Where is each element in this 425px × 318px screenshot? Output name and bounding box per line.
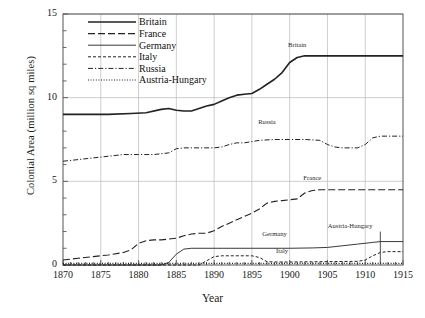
legend-label-italy: Italy <box>139 51 157 62</box>
x-tick-label-1880: 1880 <box>119 269 159 280</box>
legend-label-germany: Germany <box>139 40 176 51</box>
x-tick-label-1875: 1875 <box>81 269 121 280</box>
legend-label-britain: Britain <box>139 16 167 27</box>
x-tick-label-1885: 1885 <box>156 269 196 280</box>
y-tick-label-15: 15 <box>33 7 57 18</box>
annotation-italy: Italy <box>276 247 289 254</box>
legend-label-russia: Russia <box>139 63 166 74</box>
annotation-france: France <box>303 174 321 181</box>
x-tick-label-1915: 1915 <box>383 269 423 280</box>
x-tick-label-1900: 1900 <box>270 269 310 280</box>
x-tick-label-1905: 1905 <box>307 269 347 280</box>
x-tick-label-1910: 1910 <box>345 269 385 280</box>
annotation-russia: Russia <box>258 118 276 125</box>
y-tick-label-5: 5 <box>33 174 57 185</box>
series-line-russia <box>63 136 403 161</box>
x-tick-label-1870: 1870 <box>43 269 83 280</box>
y-tick-label-10: 10 <box>33 91 57 102</box>
series-line-britain <box>63 56 403 115</box>
chart-figure: Colonial Area (million sq miles) Year Br… <box>0 0 425 318</box>
x-tick-label-1895: 1895 <box>232 269 272 280</box>
annotation-austria-hungary: Austria-Hungary <box>328 222 373 229</box>
x-tick-label-1890: 1890 <box>194 269 234 280</box>
annotation-germany: Germany <box>262 230 287 237</box>
annotation-britain: Britain <box>288 41 307 48</box>
series-group <box>63 56 403 265</box>
legend-label-france: France <box>139 28 167 39</box>
legend: BritainFranceGermanyItalyRussiaAustria-H… <box>88 16 207 85</box>
y-tick-label-0: 0 <box>33 258 57 269</box>
legend-label-austria-hungary: Austria-Hungary <box>139 74 207 85</box>
